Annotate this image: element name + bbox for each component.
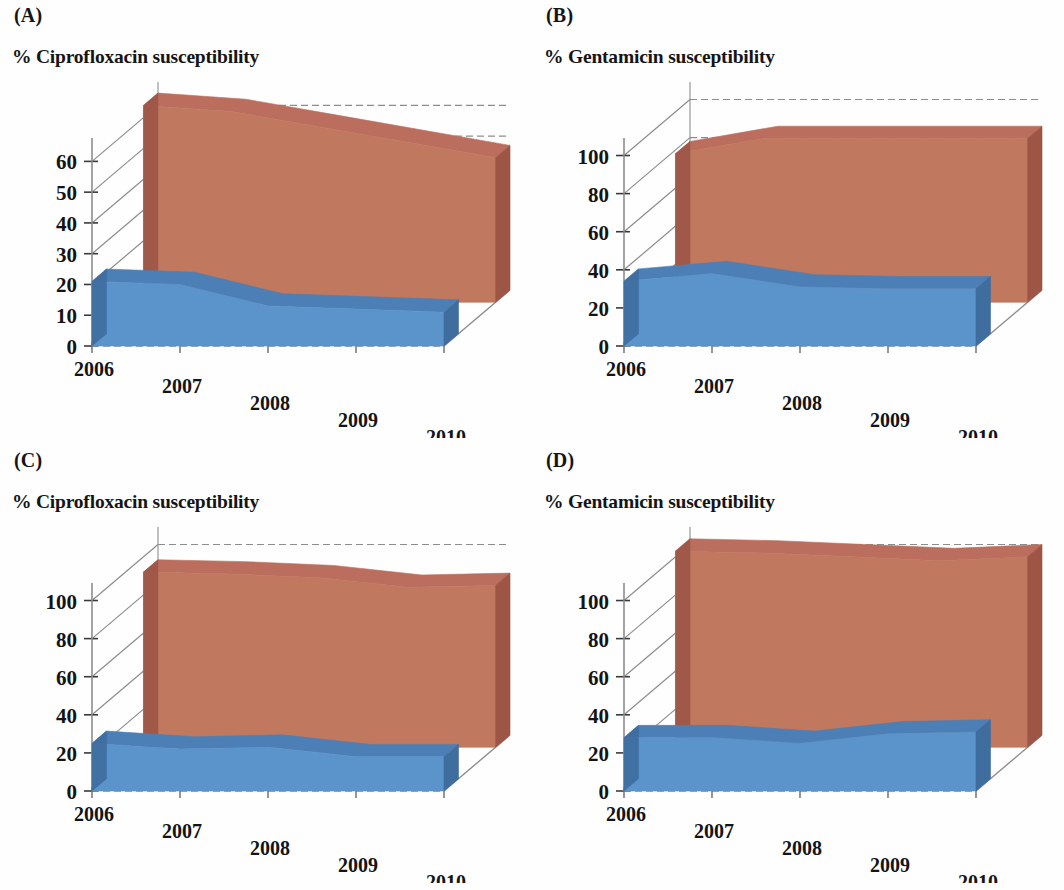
figure-root: (A) % Ciprofloxacin susceptibility 01020… bbox=[0, 0, 1064, 890]
y-tick-label: 60 bbox=[56, 666, 77, 690]
y-tick-label: 60 bbox=[56, 150, 77, 174]
panel-b-letter: (B) bbox=[546, 4, 573, 27]
x-tick-label: 2006 bbox=[606, 358, 646, 380]
x-tick-label: 2006 bbox=[606, 803, 646, 825]
series-red-front-face bbox=[143, 572, 495, 747]
y-tick-label: 40 bbox=[588, 704, 609, 728]
y-tick-label: 50 bbox=[56, 181, 77, 205]
series-red-right-cap bbox=[1027, 545, 1042, 748]
series-red-front-face bbox=[675, 551, 1027, 747]
panel-a: (A) % Ciprofloxacin susceptibility 01020… bbox=[0, 0, 532, 445]
series-blue-ribbon bbox=[624, 720, 991, 791]
x-tick-label: 2007 bbox=[694, 820, 734, 842]
y-tick-label: 20 bbox=[588, 297, 609, 321]
x-tick-label: 2010 bbox=[426, 426, 466, 438]
series-blue-left-cap bbox=[92, 269, 107, 346]
x-tick-label: 2007 bbox=[162, 820, 202, 842]
panel-a-letter: (A) bbox=[14, 4, 42, 27]
x-tick-label: 2007 bbox=[694, 375, 734, 397]
y-tick-label: 60 bbox=[588, 666, 609, 690]
x-tick-label: 2009 bbox=[870, 409, 910, 431]
series-red-right-cap bbox=[495, 573, 510, 747]
series-red-left-cap bbox=[675, 539, 690, 748]
x-tick-label: 2007 bbox=[162, 375, 202, 397]
panel-c-title: % Ciprofloxacin susceptibility bbox=[12, 491, 259, 513]
y-tick-label: 0 bbox=[67, 335, 78, 359]
series-red-ribbon bbox=[675, 539, 1042, 748]
x-tick-label: 2008 bbox=[250, 392, 290, 414]
y-tick-label: 100 bbox=[578, 590, 610, 614]
panel-d-plot: 02040608010020062007200820092010 bbox=[532, 523, 1064, 883]
x-tick-label: 2009 bbox=[338, 854, 378, 876]
panel-a-title: % Ciprofloxacin susceptibility bbox=[12, 46, 259, 68]
panel-c-letter: (C) bbox=[14, 449, 42, 472]
series-red-right-cap bbox=[495, 145, 510, 302]
y-tick-label: 80 bbox=[588, 183, 609, 207]
series-blue-right-cap bbox=[976, 720, 991, 791]
y-tick-label: 0 bbox=[599, 780, 610, 804]
y-tick-label: 20 bbox=[56, 742, 77, 766]
series-blue-right-cap bbox=[976, 277, 991, 346]
gridline-depth bbox=[624, 100, 690, 156]
area-chart-a: 010203040506020062007200820092010Year bbox=[0, 78, 532, 438]
y-tick-label: 100 bbox=[46, 590, 78, 614]
panel-b-plot: 02040608010020062007200820092010Year bbox=[532, 78, 1064, 438]
y-tick-label: 0 bbox=[599, 335, 610, 359]
x-tick-label: 2010 bbox=[958, 426, 998, 438]
series-red-left-cap bbox=[143, 560, 158, 748]
y-tick-label: 10 bbox=[56, 304, 77, 328]
series-red-ribbon bbox=[143, 560, 510, 748]
y-tick-label: 60 bbox=[588, 221, 609, 245]
y-tick-label: 40 bbox=[56, 704, 77, 728]
x-tick-label: 2008 bbox=[782, 392, 822, 414]
panel-a-plot: 010203040506020062007200820092010Year bbox=[0, 78, 532, 438]
series-red-right-cap bbox=[1027, 126, 1042, 302]
area-chart-d: 02040608010020062007200820092010 bbox=[532, 523, 1064, 883]
x-tick-label: 2010 bbox=[426, 871, 466, 883]
x-tick-label: 2010 bbox=[958, 871, 998, 883]
x-tick-label: 2008 bbox=[250, 837, 290, 859]
y-tick-label: 80 bbox=[588, 628, 609, 652]
panel-d-title: % Gentamicin susceptibility bbox=[544, 491, 775, 513]
y-tick-label: 30 bbox=[56, 243, 77, 267]
y-tick-label: 80 bbox=[56, 628, 77, 652]
area-chart-b: 02040608010020062007200820092010Year bbox=[532, 78, 1064, 438]
series-red-ribbon bbox=[143, 93, 510, 302]
y-tick-label: 40 bbox=[588, 259, 609, 283]
y-tick-label: 20 bbox=[588, 742, 609, 766]
x-tick-label: 2009 bbox=[870, 854, 910, 876]
panel-d: (D) % Gentamicin susceptibility 02040608… bbox=[532, 445, 1064, 890]
y-tick-label: 40 bbox=[56, 212, 77, 236]
panel-c-plot: 02040608010020062007200820092010 bbox=[0, 523, 532, 883]
panel-b: (B) % Gentamicin susceptibility 02040608… bbox=[532, 0, 1064, 445]
y-tick-label: 20 bbox=[56, 273, 77, 297]
x-tick-label: 2008 bbox=[782, 837, 822, 859]
series-blue-left-cap bbox=[624, 269, 639, 346]
x-tick-label: 2006 bbox=[74, 358, 114, 380]
x-tick-label: 2006 bbox=[74, 803, 114, 825]
panel-c: (C) % Ciprofloxacin susceptibility 02040… bbox=[0, 445, 532, 890]
y-tick-label: 100 bbox=[578, 145, 610, 169]
y-tick-label: 0 bbox=[67, 780, 78, 804]
area-chart-c: 02040608010020062007200820092010 bbox=[0, 523, 532, 883]
panel-b-title: % Gentamicin susceptibility bbox=[544, 46, 775, 68]
panel-d-letter: (D) bbox=[546, 449, 574, 472]
x-tick-label: 2009 bbox=[338, 409, 378, 431]
